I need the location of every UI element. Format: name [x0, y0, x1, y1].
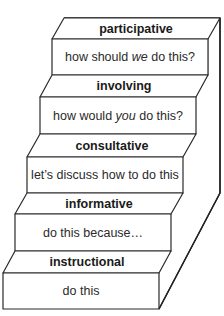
- step-participative: participative how should we do this?: [52, 18, 220, 75]
- step-consultative: consultative let’s discuss how to do thi…: [27, 134, 196, 193]
- step-description: do this because…: [43, 226, 143, 240]
- step-description: let’s discuss how to do this: [31, 168, 179, 182]
- step-label: involving: [97, 79, 152, 93]
- step-involving: involving how would you do this?: [40, 75, 208, 134]
- step-label: participative: [99, 22, 173, 36]
- step-instructional: instructional do this: [3, 251, 171, 309]
- step-label: instructional: [49, 255, 124, 269]
- step-description: how should we do this?: [65, 50, 195, 64]
- step-description: do this: [63, 284, 100, 298]
- step-informative: informative do this because…: [15, 193, 183, 251]
- step-description: how would you do this?: [53, 109, 183, 123]
- step-label: informative: [65, 197, 132, 211]
- step-label: consultative: [76, 139, 149, 153]
- staircase-diagram: participative how should we do this? inv…: [0, 0, 224, 316]
